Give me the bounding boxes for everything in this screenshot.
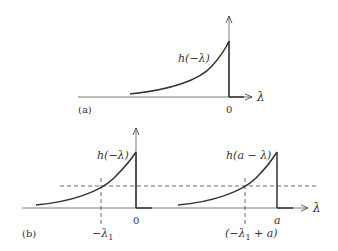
panel-b-tag: (b) — [22, 228, 36, 239]
convolution-diagram: h(−λ) λ 0 (a) h(−λ) h(a − λ) λ 0 a −λ1 (… — [0, 0, 338, 251]
panel-b-neg-lambda1-label: −λ1 — [92, 227, 113, 242]
panel-b-function-label-1: h(−λ) — [97, 149, 129, 162]
panel-b-lambda-axis-label: λ — [312, 201, 321, 215]
panel-b-a-label: a — [274, 214, 281, 227]
panel-a: h(−λ) λ 0 (a) — [78, 16, 265, 115]
panel-a-lambda-axis-label: λ — [256, 90, 265, 104]
panel-a-function-label: h(−λ) — [178, 52, 210, 65]
panel-b: h(−λ) h(a − λ) λ 0 a −λ1 (−λ1 + a) (b) — [22, 128, 321, 242]
panel-b-function-label-2: h(a − λ) — [226, 149, 271, 162]
panel-a-curve-h-neg-lambda — [130, 41, 229, 94]
panel-b-shifted-label: (−λ1 + a) — [225, 227, 278, 242]
panel-a-origin-label: 0 — [226, 104, 232, 115]
panel-a-tag: (a) — [78, 104, 92, 115]
panel-b-origin-label: 0 — [133, 215, 139, 226]
